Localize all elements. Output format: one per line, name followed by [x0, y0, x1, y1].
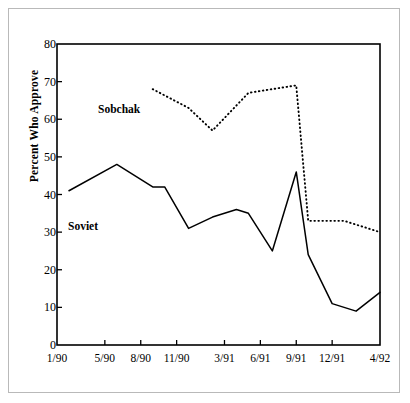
y-tick-label: 10	[32, 301, 56, 313]
axes-frame	[57, 44, 380, 345]
y-tick-label: 50	[32, 151, 56, 163]
x-tick-label: 5/90	[95, 352, 115, 364]
series-label-soviet: Soviet	[68, 220, 98, 232]
y-tick-label: 40	[32, 189, 56, 201]
y-tick-label: 80	[32, 38, 56, 50]
y-tick-label: 0	[32, 339, 56, 351]
plot-area-border	[57, 44, 380, 345]
series-line-soviet	[69, 164, 380, 311]
x-tick-label: 9/91	[286, 352, 306, 364]
x-tick-label: 11/90	[164, 352, 190, 364]
line-chart	[0, 0, 410, 403]
y-axis-tick-labels: 01020304050607080	[28, 0, 56, 403]
x-tick-label: 4/92	[370, 352, 390, 364]
series-label-sobchak: Sobchak	[98, 103, 140, 115]
y-tick-label: 20	[32, 264, 56, 276]
x-tick-label: 6/91	[250, 352, 270, 364]
series-line-sobchak	[153, 85, 380, 232]
y-tick-label: 30	[32, 226, 56, 238]
x-tick-label: 12/91	[319, 352, 345, 364]
tick-marks	[57, 82, 332, 345]
x-tick-label: 1/90	[47, 352, 67, 364]
x-tick-label: 8/90	[131, 352, 151, 364]
y-tick-label: 70	[32, 76, 56, 88]
y-tick-label: 60	[32, 113, 56, 125]
x-tick-label: 3/91	[214, 352, 234, 364]
x-axis-tick-labels: 1/905/908/9011/903/916/919/9112/914/92	[0, 352, 410, 374]
